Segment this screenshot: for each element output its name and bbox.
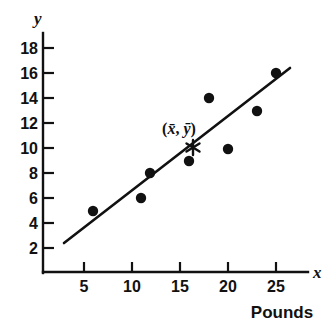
scatter-plot-figure: 18 16 14 12 10 8 6 4 2 y 5 10 15 20	[0, 0, 332, 330]
x-tick-label-15: 15	[171, 278, 189, 295]
y-tick-label-8: 8	[29, 165, 38, 182]
mean-annot-close-paren: )	[191, 120, 196, 138]
data-point	[252, 106, 262, 116]
x-tick-marks	[84, 262, 276, 272]
data-point	[145, 168, 155, 178]
x-tick-label-10: 10	[123, 278, 141, 295]
y-tick-label-18: 18	[20, 40, 38, 57]
y-tick-label-16: 16	[20, 65, 38, 82]
data-point	[88, 206, 98, 216]
mean-point-annotation: (x̄, ȳ)	[162, 120, 196, 138]
y-tick-label-2: 2	[29, 240, 38, 257]
x-tick-labels: 5 10 15 20 25	[80, 278, 285, 295]
y-tick-label-10: 10	[20, 140, 38, 157]
x-axis-label: x	[312, 263, 322, 282]
data-points	[88, 68, 281, 216]
x-tick-label-20: 20	[219, 278, 237, 295]
x-tick-label-5: 5	[80, 278, 89, 295]
y-tick-label-14: 14	[20, 90, 38, 107]
x-axis-unit-caption: Pounds	[251, 303, 313, 322]
mean-annot-comma: ,	[175, 120, 183, 137]
data-point	[204, 93, 214, 103]
data-point	[271, 68, 281, 78]
regression-line	[64, 68, 290, 243]
data-point	[184, 156, 194, 166]
mean-annot-xbar: x̄	[166, 120, 175, 137]
y-tick-label-6: 6	[29, 190, 38, 207]
x-tick-label-25: 25	[267, 278, 285, 295]
y-tick-labels: 18 16 14 12 10 8 6 4 2	[20, 40, 38, 257]
chart-svg: 18 16 14 12 10 8 6 4 2 y 5 10 15 20	[0, 0, 332, 330]
y-axis-label: y	[32, 9, 42, 28]
y-tick-marks	[43, 48, 54, 248]
data-point	[223, 144, 233, 154]
y-tick-label-12: 12	[20, 115, 38, 132]
y-tick-label-4: 4	[29, 215, 38, 232]
data-point	[136, 193, 146, 203]
